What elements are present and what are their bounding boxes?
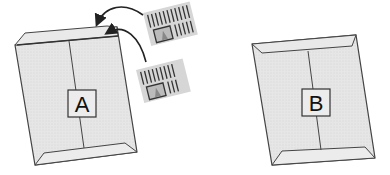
envelope-a-label: A bbox=[68, 90, 96, 117]
envelope-diagram: A B bbox=[0, 0, 390, 175]
envelope-b: B bbox=[252, 35, 375, 165]
envelope-a: A bbox=[15, 26, 137, 165]
svg-text:A: A bbox=[75, 92, 90, 117]
svg-text:B: B bbox=[309, 91, 324, 116]
document-2 bbox=[136, 58, 191, 103]
document-1 bbox=[143, 1, 198, 46]
arrow-doc1-to-a bbox=[97, 7, 143, 24]
envelope-b-label: B bbox=[302, 89, 330, 116]
